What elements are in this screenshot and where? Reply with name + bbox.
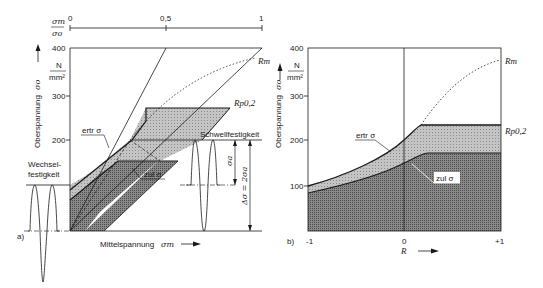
label-zul-a: zul σ [144, 170, 161, 179]
panel-label-b: b) [287, 237, 294, 246]
zul-region-b [308, 153, 501, 231]
y-tick-300-b: 300 [290, 92, 304, 101]
right-arrow-icon-b [418, 249, 439, 254]
label-zul-b: zul σ [436, 174, 453, 183]
unit-den-b: mm² [287, 73, 303, 82]
label-wechsel-2: festigkeit [28, 170, 60, 179]
y-tick-200-b: 200 [290, 136, 304, 145]
schwell-sine-wave [186, 140, 220, 231]
x-tick-neg1: -1 [306, 237, 314, 246]
svg-text:σo: σo [33, 80, 42, 90]
right-arrow-icon [181, 242, 201, 247]
up-arrow-icon [36, 44, 41, 62]
y-title-a: Oberspannung σo [33, 80, 42, 148]
label-rp02-a: Rp0,2 [233, 98, 256, 108]
svg-text:Oberspannung: Oberspannung [33, 95, 42, 148]
y-tick-400: 400 [52, 44, 66, 53]
figure-b: 400 300 200 100 N mm² Oberspannung σo -1… [274, 44, 527, 256]
label-ertr-a: ertr σ [82, 126, 101, 135]
rm-dotted-curve-b [421, 60, 500, 125]
rm-line [70, 48, 262, 231]
y-title-b: Oberspannung σo [274, 80, 283, 148]
unit-den: mm² [49, 73, 65, 82]
label-rm-b: Rm [504, 56, 517, 66]
svg-text:σo: σo [274, 80, 283, 90]
label-ertr-b: ertr σ [356, 131, 375, 140]
y-tick-400-b: 400 [290, 44, 304, 53]
y-tick-200: 200 [52, 136, 66, 145]
x-symbol-r: R [400, 246, 407, 256]
label-schwell: Schwellfestigkeit [200, 130, 260, 139]
top-scale-denominator: σo [52, 29, 62, 38]
x-symbol-a: σm [161, 240, 174, 249]
unit-num: N [56, 61, 62, 70]
label-delta-sigma: Δσ = 2σa [240, 166, 249, 206]
fatigue-diagram: 0 0,5 1 σm σo [0, 0, 543, 288]
label-sigma-a: σa [225, 156, 234, 166]
label-rm-a: Rm [257, 56, 270, 66]
label-wechsel-1: Wechsel- [28, 160, 62, 169]
figure-a: 0 0,5 1 σm σo [17, 14, 270, 282]
y-tick-100-b: 100 [290, 182, 304, 191]
top-ratio-scale: 0 0,5 1 σm σo [51, 14, 264, 38]
y-tick-300: 300 [52, 92, 66, 101]
unit-num-b: N [294, 61, 300, 70]
x-title-a: Mittelspannung [100, 240, 154, 249]
top-tick-0: 0 [68, 14, 73, 23]
wechsel-sine-wave [28, 185, 60, 282]
top-tick-05: 0,5 [160, 14, 172, 23]
top-tick-1: 1 [259, 14, 264, 23]
top-scale-numerator: σm [52, 17, 65, 26]
svg-text:Oberspannung: Oberspannung [274, 95, 283, 148]
x-tick-0: 0 [402, 237, 407, 246]
label-rp02-b: Rp0,2 [504, 126, 527, 136]
x-tick-pos1: +1 [495, 237, 505, 246]
panel-label-a: a) [17, 232, 24, 241]
up-arrow-icon-b [278, 63, 283, 80]
